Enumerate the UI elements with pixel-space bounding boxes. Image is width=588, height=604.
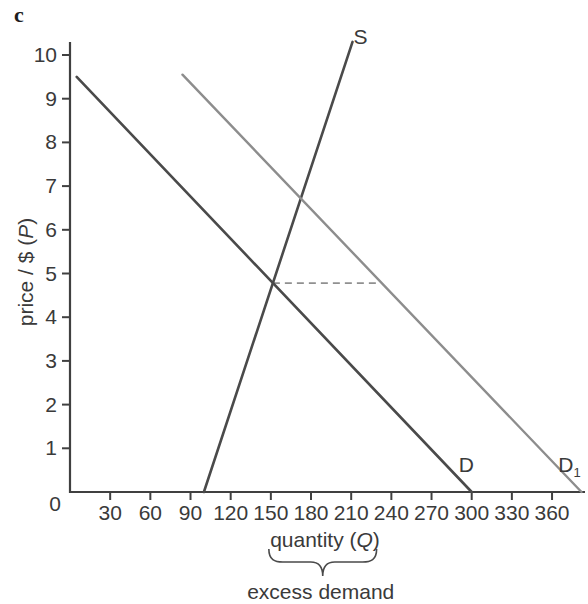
- x-tick-label: 60: [139, 501, 162, 524]
- x-tick-label: 330: [494, 501, 529, 524]
- excess-demand-label: excess demand: [247, 580, 394, 603]
- x-tick-label: 240: [374, 501, 409, 524]
- supply-label: S: [354, 25, 368, 48]
- demand-shifted-label: D1: [558, 453, 580, 480]
- excess-demand-brace: [269, 549, 377, 576]
- supply-demand-chart: 1234567891030609012015018021024027030033…: [0, 0, 588, 604]
- demand-shifted-line: [182, 75, 581, 492]
- y-tick-label: 2: [45, 393, 57, 416]
- y-tick-label: 3: [45, 349, 57, 372]
- x-tick-label: 300: [454, 501, 489, 524]
- x-tick-label: 30: [98, 501, 121, 524]
- panel-label: c: [14, 2, 24, 28]
- x-tick-label: 120: [213, 501, 248, 524]
- x-tick-label: 360: [535, 501, 570, 524]
- x-tick-label: 150: [253, 501, 288, 524]
- demand-label: D: [459, 453, 474, 476]
- x-tick-label: 210: [334, 501, 369, 524]
- y-tick-label: 8: [45, 130, 57, 153]
- x-tick-label: 180: [293, 501, 328, 524]
- x-tick-label: 270: [414, 501, 449, 524]
- demand-line: [77, 77, 472, 492]
- y-tick-label: 9: [45, 87, 57, 110]
- y-axis-title: price / $ (P): [14, 218, 37, 327]
- y-tick-label: 10: [34, 43, 57, 66]
- y-tick-label: 4: [45, 305, 57, 328]
- y-tick-label: 6: [45, 218, 57, 241]
- figure-panel: c 12345678910306090120150180210240270300…: [0, 0, 588, 604]
- y-tick-label: 7: [45, 174, 57, 197]
- x-tick-label: 90: [179, 501, 202, 524]
- x-axis-title: quantity (Q): [270, 528, 380, 551]
- supply-line: [204, 42, 353, 492]
- y-tick-label: 5: [45, 262, 57, 285]
- origin-label: 0: [49, 492, 61, 515]
- y-tick-label: 1: [45, 436, 57, 459]
